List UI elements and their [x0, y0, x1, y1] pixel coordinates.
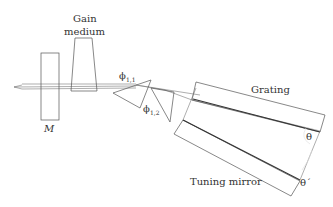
tuning-mirror-label: Tuning mirror — [190, 176, 262, 187]
mirror-label: M — [43, 123, 55, 134]
grating-surface — [193, 99, 320, 132]
gain-medium — [71, 38, 97, 91]
theta-label: θ — [306, 131, 312, 142]
theta-prime-label: θ´ — [300, 177, 311, 188]
phi-12-sub: 1,2 — [150, 109, 160, 116]
phi-11-sub: 1,1 — [126, 76, 136, 83]
prism-2 — [151, 88, 174, 122]
grating-label: Grating — [251, 84, 290, 95]
tuning-mirror-surface — [183, 120, 300, 180]
phi-12-label: ϕ — [143, 103, 150, 114]
gain-label-2: medium — [64, 26, 105, 37]
gain-label-1: Gain — [73, 13, 97, 24]
optical-diagram: M Gain medium ϕ 1,1 ϕ 1,2 Grating Tuning… — [0, 0, 333, 207]
phi-11-label: ϕ — [119, 70, 126, 81]
